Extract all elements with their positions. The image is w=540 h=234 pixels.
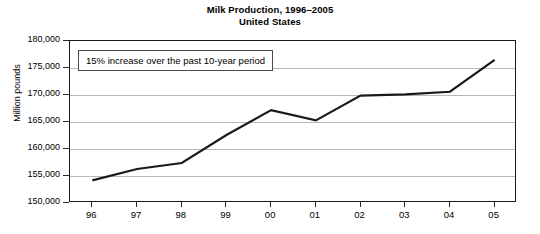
annotation-callout: 15% increase over the past 10-year perio… xyxy=(78,50,273,71)
y-axis-tick-label: 165,000 xyxy=(27,115,60,125)
x-axis-tick-label: 97 xyxy=(124,209,148,220)
annotation-text: 15% increase over the past 10-year perio… xyxy=(86,55,265,66)
series-polyline xyxy=(92,60,494,180)
chart-title-block: Milk Production, 1996–2005 United States xyxy=(0,4,540,28)
x-axis-tick-label: 05 xyxy=(482,209,506,220)
y-axis-tick-label: 180,000 xyxy=(27,34,60,44)
x-axis-tick-label: 00 xyxy=(258,209,282,220)
y-axis-tick-label: 150,000 xyxy=(27,196,60,206)
y-axis-tick-label: 160,000 xyxy=(27,142,60,152)
y-axis-tick-label: 175,000 xyxy=(27,61,60,71)
x-axis-tick-label: 04 xyxy=(437,209,461,220)
y-axis-tick-label: 170,000 xyxy=(27,88,60,98)
x-axis-tick-label: 98 xyxy=(169,209,193,220)
y-axis-label: Million pounds xyxy=(12,38,22,148)
chart-subtitle: United States xyxy=(0,16,540,28)
x-axis-tick-label: 03 xyxy=(392,209,416,220)
chart-title: Milk Production, 1996–2005 xyxy=(0,4,540,16)
chart-container: Milk Production, 1996–2005 United States… xyxy=(0,0,540,234)
y-axis-tick-label: 155,000 xyxy=(27,169,60,179)
x-axis-tick-label: 02 xyxy=(348,209,372,220)
x-axis-tick-label: 01 xyxy=(303,209,327,220)
x-axis-tick-label: 96 xyxy=(79,209,103,220)
x-axis-tick-label: 99 xyxy=(213,209,237,220)
y-axis-tick-mark xyxy=(63,202,69,203)
